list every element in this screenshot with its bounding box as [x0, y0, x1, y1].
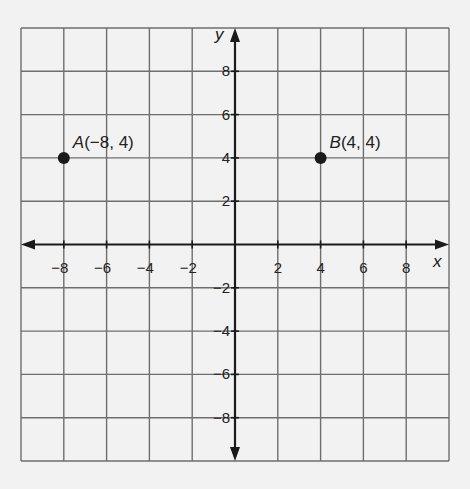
y-tick-label: 6 — [222, 106, 230, 123]
point-a — [58, 152, 70, 164]
x-tick-label: 4 — [316, 259, 324, 276]
y-tick-label: −8 — [213, 409, 230, 426]
x-tick-label: −4 — [137, 259, 154, 276]
x-tick-label: −8 — [51, 259, 68, 276]
y-tick-label: −4 — [213, 322, 230, 339]
x-axis-arrow-left-icon — [21, 240, 35, 250]
y-axis-arrow-down-icon — [230, 447, 240, 461]
y-tick-label: 8 — [222, 62, 230, 79]
x-tick-label: −2 — [180, 259, 197, 276]
y-tick-label: 2 — [222, 192, 230, 209]
coordinate-plane: xy−8−6−4−224688642−2−4−6−8 A(−8, 4)B(4, … — [0, 0, 470, 489]
y-axis-arrow-up-icon — [230, 28, 240, 42]
x-tick-label: 8 — [402, 259, 410, 276]
y-tick-label: −2 — [213, 279, 230, 296]
y-tick-label: 4 — [222, 149, 230, 166]
point-label-a: A(−8, 4) — [72, 133, 134, 152]
y-axis-label: y — [214, 25, 225, 44]
x-axis-label: x — [432, 252, 442, 271]
x-tick-label: −6 — [94, 259, 111, 276]
tick-labels: xy−8−6−4−224688642−2−4−6−8 — [51, 25, 442, 426]
x-tick-label: 6 — [359, 259, 367, 276]
x-tick-label: 2 — [274, 259, 282, 276]
y-tick-label: −6 — [213, 365, 230, 382]
point-b — [315, 152, 327, 164]
point-label-b: B(4, 4) — [330, 133, 381, 152]
x-axis-arrow-right-icon — [435, 240, 449, 250]
axes — [21, 28, 449, 461]
